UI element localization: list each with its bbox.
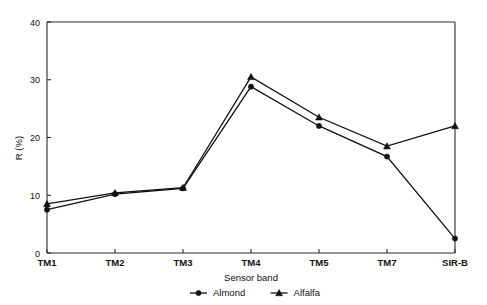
data-point-almond-tm4: [248, 84, 253, 89]
x-tick-label-tm3: TM3: [174, 257, 193, 268]
chart-legend: AlmondAlfalfa: [190, 287, 321, 298]
plot-frame: [47, 22, 455, 253]
y-tick-label: 10: [30, 191, 40, 201]
x-tick-label-tm1: TM1: [38, 257, 58, 268]
x-tick-label-sir-b: SIR-B: [442, 257, 468, 268]
data-point-alfalfa-sir-b: [452, 123, 459, 129]
data-point-almond-tm5: [316, 123, 321, 128]
legend-label-almond: Almond: [213, 287, 245, 298]
data-point-almond-sir-b: [452, 236, 457, 241]
x-tick-label-tm7: TM7: [378, 257, 397, 268]
y-axis-ticks: 010203040: [30, 18, 51, 259]
y-tick-label: 30: [30, 75, 40, 85]
data-point-almond-tm1: [44, 207, 49, 212]
y-axis-title: R (%): [13, 136, 24, 160]
x-tick-label-tm5: TM5: [310, 257, 330, 268]
x-tick-label-tm2: TM2: [106, 257, 125, 268]
data-series-group: [44, 73, 459, 241]
data-point-alfalfa-tm5: [316, 114, 323, 120]
y-tick-label: 20: [30, 133, 40, 143]
legend-item-alfalfa[interactable]: Alfalfa: [271, 287, 321, 298]
series-alfalfa: [44, 73, 459, 206]
chart-figure: 010203040 TM1TM2TM3TM4TM5TM7SIR-B R (%) …: [0, 0, 487, 305]
x-axis-title: Sensor band: [224, 272, 278, 283]
data-point-almond-tm7: [384, 154, 389, 159]
data-point-alfalfa-tm4: [248, 73, 255, 79]
legend-label-alfalfa: Alfalfa: [294, 287, 321, 298]
legend-item-almond[interactable]: Almond: [190, 287, 245, 298]
x-tick-label-tm4: TM4: [242, 257, 262, 268]
y-tick-label: 40: [30, 18, 40, 28]
x-axis-ticks: TM1TM2TM3TM4TM5TM7SIR-B: [38, 249, 469, 268]
series-almond: [44, 84, 457, 241]
series-line-almond: [47, 87, 455, 239]
line-chart: 010203040 TM1TM2TM3TM4TM5TM7SIR-B R (%) …: [0, 0, 487, 305]
legend-marker-almond: [196, 290, 201, 295]
series-line-alfalfa: [47, 77, 455, 204]
